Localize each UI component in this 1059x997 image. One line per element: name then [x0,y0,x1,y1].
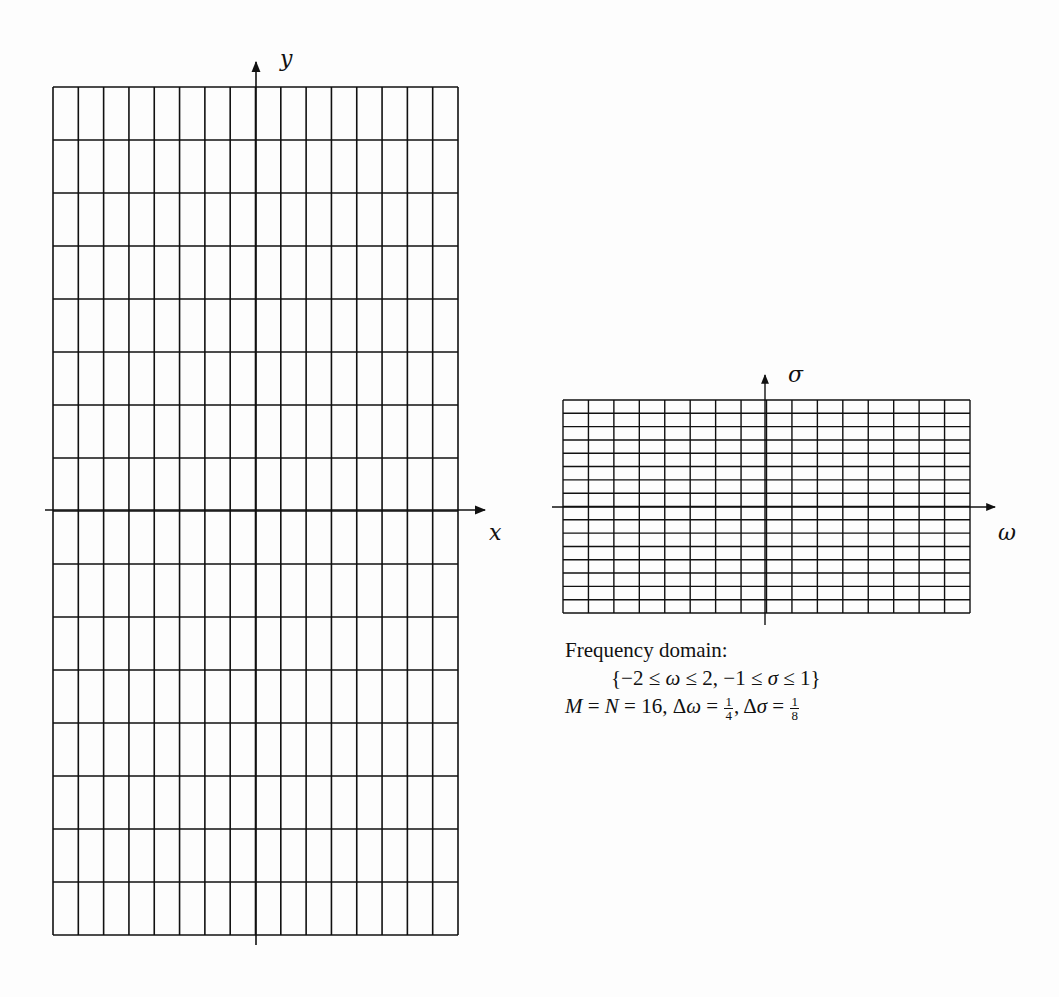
page: y x σ ω Frequency domain: {−2 ≤ ω ≤ 2, −… [0,0,1059,997]
caption-title: Frequency domain: [565,636,821,664]
y-axis-label: y [280,48,292,70]
caption-range: {−2 ≤ ω ≤ 2, −1 ≤ σ ≤ 1} [565,664,821,692]
sigma-axis-label: σ [788,364,803,386]
figure-canvas [0,0,1059,997]
spatial-axes [45,62,485,945]
x-axis-label: x [489,522,501,544]
caption-sampling: M = N = 16, Δω = 14, Δσ = 18 [565,692,821,722]
delta-omega-fraction: 14 [724,695,733,722]
frequency-axes [552,375,995,625]
delta-sigma-fraction: 18 [790,695,799,722]
frequency-domain-caption: Frequency domain: {−2 ≤ ω ≤ 2, −1 ≤ σ ≤ … [565,636,821,722]
omega-axis-label: ω [998,522,1016,544]
